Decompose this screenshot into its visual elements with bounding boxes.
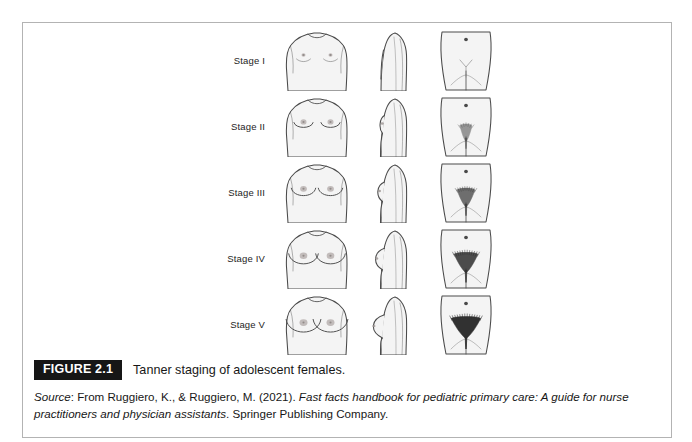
figure-caption-text: Tanner staging of adolescent females. (133, 363, 345, 377)
lateral-view-panel (365, 227, 423, 289)
lateral-view-panel (365, 293, 423, 355)
pubic-view-panel (429, 161, 503, 223)
pubic-view-panel (429, 29, 503, 91)
frontal-view-panel (275, 29, 359, 91)
figure-caption-block: FIGURE 2.1 Tanner staging of adolescent … (23, 359, 671, 422)
stage-label: Stage IV (173, 253, 265, 264)
source-attribution: From Ruggiero, K., & Ruggiero, M. (2021)… (77, 390, 299, 403)
caption-line: FIGURE 2.1 Tanner staging of adolescent … (34, 359, 660, 381)
lateral-view-panel (365, 29, 423, 91)
source-publisher: . Springer Publishing Company. (226, 407, 388, 420)
stage-row: Stage V (23, 293, 671, 355)
stage-row: Stage II (23, 95, 671, 157)
stage-label: Stage II (173, 121, 265, 132)
pubic-view-panel (429, 95, 503, 157)
lateral-view-panel (365, 95, 423, 157)
frontal-view-panel (275, 161, 359, 223)
tanner-staging-illustration: Stage IStage IIStage IIIStage IVStage V (23, 23, 671, 355)
frontal-view-panel (275, 227, 359, 289)
stage-label: Stage I (173, 55, 265, 66)
figure-source-note: Source: From Ruggiero, K., & Ruggiero, M… (34, 388, 648, 422)
stage-label: Stage V (173, 319, 265, 330)
stage-label: Stage III (173, 187, 265, 198)
lateral-view-panel (365, 161, 423, 223)
frontal-view-panel (275, 293, 359, 355)
source-label: Source (34, 390, 71, 403)
frontal-view-panel (275, 95, 359, 157)
stage-row: Stage III (23, 161, 671, 223)
stage-row: Stage I (23, 29, 671, 91)
stage-row: Stage IV (23, 227, 671, 289)
pubic-view-panel (429, 227, 503, 289)
figure-number-badge: FIGURE 2.1 (34, 360, 122, 380)
pubic-view-panel (429, 293, 503, 355)
figure-frame: Stage IStage IIStage IIIStage IVStage V … (22, 22, 672, 438)
